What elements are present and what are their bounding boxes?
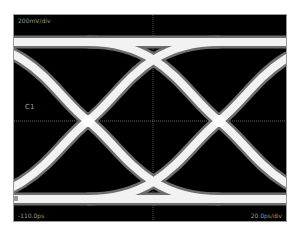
- vertical-scale-label: 200mV/div: [18, 17, 50, 24]
- ground-marker-icon: [14, 196, 18, 201]
- channel-label: C1: [25, 104, 34, 111]
- eye-diagram-traces: [14, 15, 287, 222]
- crossing-point-2: [213, 115, 225, 127]
- crossing-point-1: [82, 115, 94, 127]
- time-offset-label: -110.0ps: [18, 212, 44, 219]
- eye-diagram-display: 200mV/div C1 -110.0ps 20.0ps/div: [13, 14, 287, 222]
- trace-main: [14, 42, 287, 199]
- horizontal-scale-label: 20.0ps/div: [251, 212, 282, 219]
